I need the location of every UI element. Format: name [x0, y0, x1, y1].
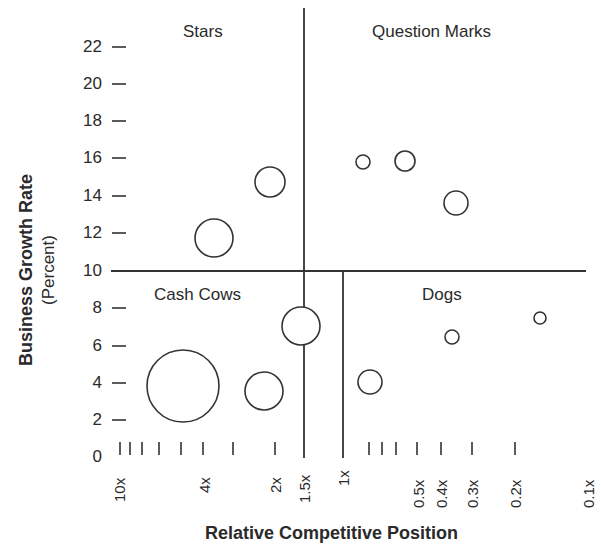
bubble-question-2	[395, 151, 415, 171]
y-tick-label: 22	[62, 37, 102, 57]
bubble-dog-1	[358, 370, 382, 394]
bubble-dog-3	[534, 312, 546, 324]
y-tick-label: 14	[62, 186, 102, 206]
y-tick-label: 16	[62, 148, 102, 168]
y-tick-label: 18	[62, 111, 102, 131]
x-tick-label: 0.4x	[433, 480, 450, 508]
y-tick-marks	[112, 47, 126, 420]
bubble-question-1	[356, 155, 370, 169]
quadrant-label-dogs: Dogs	[422, 285, 462, 305]
y-tick-label: 12	[62, 223, 102, 243]
y-tick-label: 0	[62, 447, 102, 467]
bubble-star-1	[195, 219, 233, 257]
bubble-cashcow-1	[147, 350, 219, 422]
x-tick-label: 4x	[196, 477, 213, 493]
x-axis-title: Relative Competitive Position	[205, 523, 458, 544]
quadrant-label-cash-cows: Cash Cows	[154, 285, 241, 305]
y-tick-label: 20	[62, 74, 102, 94]
bubble-question-3	[444, 191, 468, 215]
y-axis-title-sub: (Percent)	[39, 140, 59, 400]
x-tick-label: 2x	[267, 477, 284, 493]
y-tick-label: 8	[62, 298, 102, 318]
x-tick-label: 0.1x	[580, 480, 597, 508]
x-tick-label: 1x	[335, 470, 352, 486]
quadrant-label-stars: Stars	[183, 22, 223, 42]
x-tick-label: 0.2x	[507, 480, 524, 508]
bubble-cashcow-2	[245, 372, 283, 410]
y-tick-label: 2	[62, 410, 102, 430]
x-tick-label: 0.5x	[410, 480, 427, 508]
x-tick-label: 1.5x	[296, 475, 313, 503]
bubble-cashcow-3	[282, 307, 320, 345]
y-axis-title-main: Business Growth Rate	[16, 140, 37, 400]
y-tick-label: 4	[62, 373, 102, 393]
y-axis-title: Business Growth Rate (Percent)	[16, 140, 59, 400]
x-tick-label: 10x	[111, 478, 128, 502]
y-tick-label: 10	[62, 261, 102, 281]
x-tick-marks	[120, 442, 515, 455]
y-tick-label: 6	[62, 336, 102, 356]
bubble-star-2	[255, 167, 285, 197]
quadrant-label-question-marks: Question Marks	[372, 22, 491, 42]
bubble-dog-2	[445, 330, 459, 344]
x-tick-label: 0.3x	[464, 480, 481, 508]
